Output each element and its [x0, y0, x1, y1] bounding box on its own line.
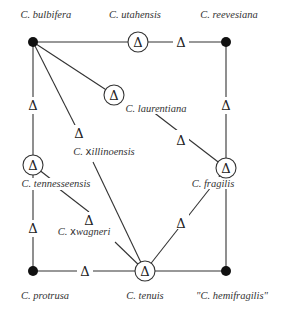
label-reevesiana: C. reevesiana — [200, 9, 257, 20]
node-bulbifera — [28, 37, 38, 47]
label-xwagneri: C. xwagneri — [58, 226, 111, 237]
edge-bulbifera-laurentiana — [33, 42, 114, 95]
delta-icon: Δ — [74, 126, 83, 141]
delta-icon: Δ — [176, 216, 185, 231]
label-hemifragilis: "C. hemifragilis" — [196, 290, 268, 301]
allopolyploid-tennesseensis: Δ — [23, 155, 43, 175]
delta-icon: Δ — [176, 35, 185, 50]
allopolyploid-laurentiana: Δ — [104, 85, 124, 105]
delta-icon: Δ — [221, 161, 230, 176]
label-protrusa: C. protrusa — [21, 290, 69, 301]
edge-tennesseensis-xwagneri — [58, 188, 89, 212]
label-bulbifera: C. bulbifera — [21, 9, 72, 20]
delta-icon: Δ — [176, 133, 185, 148]
delta-icon: Δ — [80, 264, 89, 279]
node-reevesiana — [221, 37, 231, 47]
delta-icon: Δ — [109, 88, 118, 103]
edge-xillinoensis-tenuis — [93, 162, 145, 271]
label-laurentiana: C. laurentiana — [126, 103, 187, 114]
delta-icon: Δ — [28, 158, 37, 173]
delta-icon: Δ — [28, 98, 37, 113]
delta-icon: Δ — [140, 264, 149, 279]
allopolyploid-fragilis: Δ — [216, 158, 236, 178]
edge-bulbifera-xillinoensis — [33, 42, 79, 133]
label-fragilis: C. fragilis — [192, 178, 235, 189]
label-utahensis: C. utahensis — [109, 9, 161, 20]
delta-icon: Δ — [221, 98, 230, 113]
allopolyploid-utahensis: Δ — [128, 32, 148, 52]
label-tenuis: C. tenuis — [126, 290, 163, 301]
delta-icon: Δ — [28, 221, 37, 236]
label-xillinoensis: C. xillinoensis — [73, 146, 134, 157]
allopolyploid-tenuis: Δ — [135, 261, 155, 281]
cystopteris-diagram: Δ Δ Δ Δ Δ Δ Δ Δ Δ Δ Δ Δ Δ Δ C. bulbifera… — [0, 0, 283, 319]
label-tennesseensis: C. tennesseensis — [22, 178, 91, 189]
delta-icon: Δ — [133, 35, 142, 50]
node-hemifragilis — [221, 266, 231, 276]
node-protrusa — [28, 266, 38, 276]
